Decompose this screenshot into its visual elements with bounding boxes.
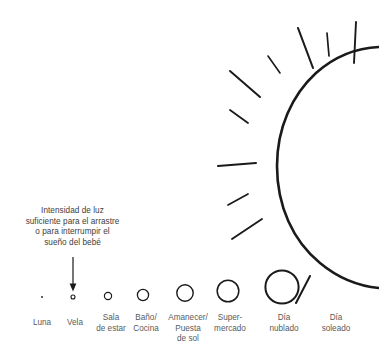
callout-line-1: Intensidad de luz: [10, 206, 135, 217]
figure-background: [0, 0, 379, 355]
axis-label-dia-nublado: Día nublado: [255, 313, 313, 334]
callout-line-3: o para interrumpir el: [10, 227, 135, 238]
light-intensity-scale-figure: [0, 0, 379, 355]
callout-text: Intensidad de luz suficiente para el arr…: [10, 206, 135, 248]
axis-label-supermercado: Super- mercado: [203, 313, 257, 334]
callout-line-4: sueño del bebé: [10, 238, 135, 249]
axis-label-dia-soleado: Día soleado: [307, 313, 365, 334]
callout-line-2: suficiente para el arrastre: [10, 217, 135, 228]
